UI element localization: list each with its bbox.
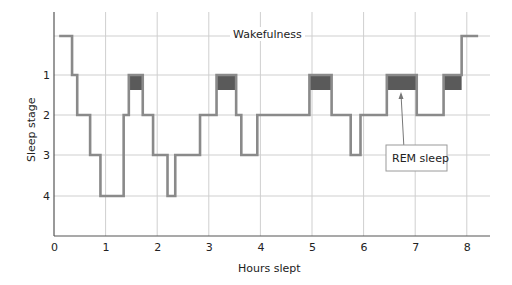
rem-callout-label: REM sleep	[392, 152, 449, 165]
rem-block	[387, 75, 417, 90]
rem-callout-arrowhead	[399, 92, 404, 99]
x-tick-label: 5	[309, 241, 316, 254]
x-tick-label: 6	[361, 241, 368, 254]
rem-callout-arrow	[401, 94, 404, 149]
x-tick-label: 7	[412, 241, 419, 254]
x-axis-title: Hours slept	[238, 262, 301, 275]
x-tick-label: 2	[154, 241, 161, 254]
x-tick-label: 0	[51, 241, 58, 254]
x-tick-label: 1	[103, 241, 110, 254]
y-tick-label: 4	[43, 190, 50, 203]
rem-block	[129, 75, 143, 90]
x-tick-label: 3	[206, 241, 213, 254]
y-tick-label: 3	[43, 149, 50, 162]
x-tick-label: 8	[464, 241, 471, 254]
x-tick-labels: 012345678	[51, 241, 471, 254]
rem-periods	[129, 75, 462, 90]
y-tick-label: 2	[43, 109, 50, 122]
y-tick-label: 1	[43, 69, 50, 82]
grid-lines	[54, 12, 490, 236]
y-tick-labels: 1234	[43, 69, 50, 203]
y-axis-title: Sleep stage	[25, 97, 38, 162]
hypnogram-chart: 012345678 1234 Wakefulness REM sleep Hou…	[0, 0, 512, 285]
axes	[54, 12, 490, 236]
rem-block	[217, 75, 237, 90]
rem-block	[444, 75, 462, 90]
rem-block	[309, 75, 331, 90]
wakefulness-label: Wakefulness	[233, 28, 302, 41]
x-tick-label: 4	[257, 241, 264, 254]
